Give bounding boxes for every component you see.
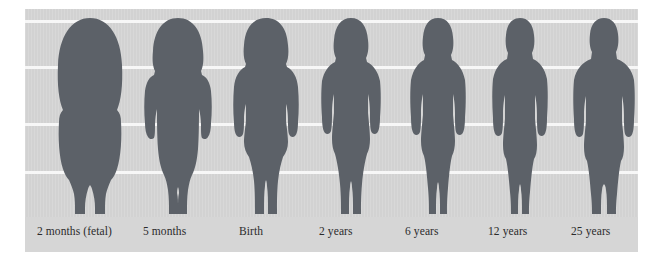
age-label-12-years: 12 years bbox=[488, 225, 527, 237]
age-label-6-years: 6 years bbox=[405, 225, 439, 237]
age-label-fetal-2-months: 2 months (fetal) bbox=[37, 225, 112, 237]
figure-age-25-years bbox=[559, 9, 638, 217]
illustration-panel: 2 months (fetal) 5 months Birth 2 years … bbox=[25, 9, 638, 252]
growth-proportions-figure: 2 months (fetal) 5 months Birth 2 years … bbox=[0, 0, 661, 261]
figure-fetal-2-months bbox=[47, 9, 133, 217]
figure-age-2-years bbox=[308, 9, 394, 217]
age-label-25-years: 25 years bbox=[571, 225, 610, 237]
age-label-2-years: 2 years bbox=[319, 225, 353, 237]
silhouette-row bbox=[25, 9, 638, 217]
figure-age-12-years bbox=[477, 9, 563, 217]
age-label-birth: Birth bbox=[239, 225, 263, 237]
figure-fetal-5-months bbox=[135, 9, 221, 217]
age-label-fetal-5-months: 5 months bbox=[143, 225, 186, 237]
figure-age-6-years bbox=[395, 9, 481, 217]
figure-birth bbox=[223, 9, 309, 217]
age-label-band: 2 months (fetal) 5 months Birth 2 years … bbox=[25, 217, 638, 252]
